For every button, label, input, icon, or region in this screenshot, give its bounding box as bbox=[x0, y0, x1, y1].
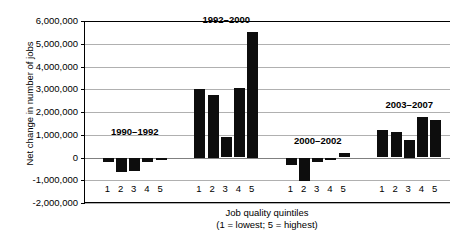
bar bbox=[129, 158, 140, 172]
bar bbox=[116, 158, 127, 172]
bar bbox=[325, 158, 336, 160]
bar bbox=[208, 95, 219, 158]
x-tick-label: 2 bbox=[392, 183, 397, 194]
y-tick-label: 4,000,000 bbox=[18, 62, 78, 72]
x-tick-label: 3 bbox=[406, 183, 411, 194]
group-label-1990-1992: 1990–1992 bbox=[111, 126, 159, 137]
group-label-2003-2007: 2003–2007 bbox=[385, 99, 433, 110]
x-tick-label: 4 bbox=[144, 183, 149, 194]
bar bbox=[339, 153, 350, 158]
y-tick-label: 3,000,000 bbox=[18, 85, 78, 95]
x-axis-label: Job quality quintiles (1 = lowest; 5 = h… bbox=[84, 207, 450, 231]
x-axis-label-main: Job quality quintiles bbox=[84, 207, 450, 219]
bar bbox=[234, 88, 245, 157]
x-tick-label: 2 bbox=[118, 183, 123, 194]
y-tick-label: 5,000,000 bbox=[18, 39, 78, 49]
y-tick-label: 0 bbox=[18, 153, 78, 163]
x-axis-label-sub: (1 = lowest; 5 = highest) bbox=[84, 219, 450, 231]
group-label-1992-2000: 1992–2000 bbox=[202, 14, 250, 25]
x-axis-line bbox=[84, 202, 450, 203]
bar bbox=[299, 158, 310, 182]
bar bbox=[103, 158, 114, 163]
y-axis-tick-labels: 6,000,0005,000,0004,000,0003,000,0002,00… bbox=[18, 21, 78, 203]
y-tick-label: 1,000,000 bbox=[18, 130, 78, 140]
x-tick-label: 5 bbox=[340, 183, 345, 194]
bar bbox=[286, 158, 297, 165]
bar bbox=[142, 158, 153, 162]
y-tick-label: -2,000,000 bbox=[18, 198, 78, 208]
x-tick-label: 1 bbox=[196, 183, 201, 194]
x-tick-label: 1 bbox=[105, 183, 110, 194]
x-tick-label: 2 bbox=[301, 183, 306, 194]
bar bbox=[312, 158, 323, 163]
bar-chart-figure: Net change in number of jobs 6,000,0005,… bbox=[0, 0, 454, 241]
x-tick-label: 3 bbox=[223, 183, 228, 194]
x-tick-label: 3 bbox=[314, 183, 319, 194]
x-axis-tick-labels: 12345123451234512345 bbox=[84, 183, 450, 203]
plot-area: 1990–19921992–20002000–20022003–2007 bbox=[84, 21, 450, 203]
bar bbox=[221, 137, 232, 157]
bars-container bbox=[85, 21, 450, 203]
x-tick-label: 5 bbox=[432, 183, 437, 194]
x-tick-label: 3 bbox=[131, 183, 136, 194]
x-tick-label: 5 bbox=[249, 183, 254, 194]
x-tick-label: 4 bbox=[327, 183, 332, 194]
bar bbox=[391, 132, 402, 157]
bar bbox=[156, 158, 167, 161]
x-tick-label: 4 bbox=[236, 183, 241, 194]
bar bbox=[417, 117, 428, 158]
x-tick-label: 4 bbox=[419, 183, 424, 194]
bar bbox=[404, 140, 415, 157]
x-tick-label: 5 bbox=[157, 183, 162, 194]
x-tick-label: 2 bbox=[209, 183, 214, 194]
bar bbox=[247, 32, 258, 157]
x-tick-label: 1 bbox=[379, 183, 384, 194]
y-tick-label: 6,000,000 bbox=[18, 16, 78, 26]
bar bbox=[430, 120, 441, 158]
bar bbox=[194, 89, 205, 157]
group-label-2000-2002: 2000–2002 bbox=[294, 135, 342, 146]
y-tick-label: -1,000,000 bbox=[18, 176, 78, 186]
x-tick-label: 1 bbox=[288, 183, 293, 194]
bar bbox=[377, 130, 388, 157]
y-tick-label: 2,000,000 bbox=[18, 107, 78, 117]
